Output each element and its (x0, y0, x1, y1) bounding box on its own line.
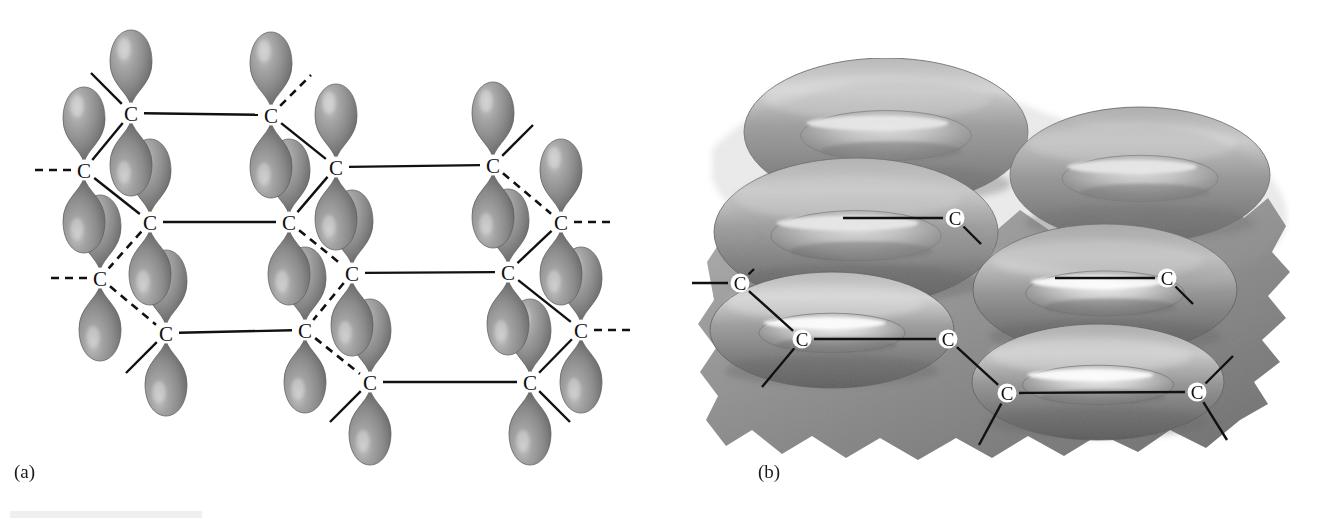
carbon-atom-symbol: C (574, 319, 588, 343)
carbon-atom-symbol: C (143, 211, 157, 235)
carbon-atom-symbol: C (1191, 382, 1204, 403)
carbon-atom-symbol: C (796, 329, 809, 350)
figure-container: CCCCCCCCCCCCCCCC CCCCCCC (a) (b) (0, 0, 1322, 526)
carbon-atom-symbol: C (942, 329, 955, 350)
carbon-atom-symbol: C (124, 102, 138, 126)
carbon-atom-symbol: C (264, 104, 278, 128)
bond-solid (365, 272, 495, 273)
panel-b-pi-cloud-diagram: CCCCCCC (692, 58, 1290, 460)
carbon-atom-symbol: C (93, 267, 107, 291)
carbon-atom-symbol: C (554, 211, 568, 235)
carbon-atom-symbol: C (77, 159, 91, 183)
bond-solid (349, 165, 480, 167)
carbon-atom-symbol: C (734, 273, 747, 294)
carbon-atom-symbol: C (329, 156, 343, 180)
carbon-atom-symbol: C (159, 322, 173, 346)
scan-artifact-strip (10, 511, 202, 518)
pi-cloud-torus (972, 324, 1224, 440)
carbon-atom-symbol: C (949, 208, 962, 229)
carbon-atom-symbol: C (523, 371, 537, 395)
panel-label-a: (a) (14, 461, 35, 483)
carbon-atom-symbol: C (363, 371, 377, 395)
bond-solid (144, 113, 258, 115)
panel-label-b: (b) (758, 461, 780, 483)
chemistry-figure-svg: CCCCCCCCCCCCCCCC CCCCCCC (a) (b) (0, 0, 1322, 526)
carbon-atom-symbol: C (282, 211, 296, 235)
bond-solid (1019, 392, 1185, 393)
carbon-atom-symbol: C (1001, 383, 1014, 404)
carbon-atom-symbol: C (298, 319, 312, 343)
carbon-atom-symbol: C (1161, 268, 1174, 289)
carbon-atom-symbol: C (486, 154, 500, 178)
carbon-atom-symbol: C (501, 261, 515, 285)
carbon-atom-symbol: C (345, 262, 359, 286)
